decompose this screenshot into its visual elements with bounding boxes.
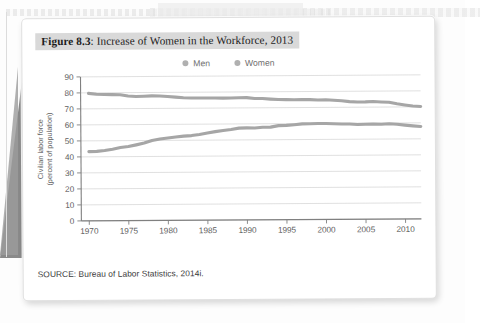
x-tick-label: 2000 [317,225,336,234]
legend-item-women: Women [234,58,275,68]
y-tick-label: 50 [65,137,75,146]
y-tick-label: 90 [64,73,74,82]
caption-title: Increase of Women in the Workforce, 2013 [97,34,294,47]
x-tick-label: 1980 [159,226,178,235]
source-note: SOURCE: Bureau of Labor Statistics, 2014… [38,268,204,279]
page-shadow-wedge-inner [0,55,18,255]
x-tick-label: 1985 [199,226,218,235]
chart-plot-area: 0102030405060708090 19701975198019851990… [32,69,425,251]
x-tick-label: 1995 [278,226,297,235]
figure-number: Figure 8.3 [41,35,90,47]
y-axis-title-line2: (percent of population) [45,113,54,186]
y-tick-label: 60 [65,121,75,130]
y-axis-title-line1: Civilian labor force [36,119,45,179]
x-axis-ticks: 197019751980198519901995200020052010 [80,219,415,236]
x-tick-label: 2005 [357,225,376,234]
x-tick-label: 2010 [396,225,415,234]
y-tick-label: 40 [65,153,75,162]
x-tick-label: 1970 [80,227,99,236]
y-tick-label: 80 [64,89,74,98]
data-series [89,91,421,151]
series-line-women [89,123,421,152]
y-axis-title: Civilian labor force(percent of populati… [36,113,54,186]
legend-label-men: Men [193,58,210,68]
y-tick-label: 70 [65,105,75,114]
x-tick-label: 1990 [238,226,257,235]
legend-label-women: Women [245,58,275,68]
y-tick-label: 20 [65,185,75,194]
legend-marker-icon-women [234,60,240,66]
line-chart-svg: 0102030405060708090 19701975198019851990… [32,69,425,251]
legend-marker-icon-men [182,60,188,66]
y-tick-label: 0 [70,217,75,226]
legend-item-men: Men [182,58,210,68]
left-margin-rule [6,12,7,257]
chart-legend: Men Women [22,57,434,70]
x-tick-label: 1975 [120,227,139,236]
figure-card: Figure 8.3: Increase of Women in the Wor… [21,16,437,302]
figure-caption: Figure 8.3: Increase of Women in the Wor… [35,32,299,51]
y-tick-label: 10 [65,201,75,210]
series-line-men [89,91,421,108]
y-tick-label: 30 [65,169,75,178]
y-axis-ticks: 0102030405060708090 [64,73,81,226]
